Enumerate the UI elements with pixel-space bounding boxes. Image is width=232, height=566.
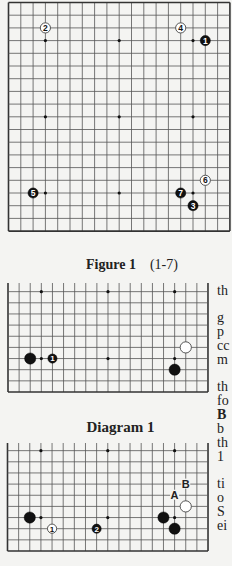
side-text-line: cc xyxy=(217,339,229,353)
side-text-line: ti xyxy=(217,477,225,491)
black-stone xyxy=(24,512,35,523)
go-board-partial: 12AB xyxy=(0,0,232,566)
svg-text:1: 1 xyxy=(50,525,55,534)
star-point xyxy=(39,516,42,519)
side-text-line: m xyxy=(217,353,228,367)
side-text-line: th xyxy=(217,284,228,298)
side-text-line: S xyxy=(217,505,225,519)
svg-text:2: 2 xyxy=(94,525,99,534)
side-text-line: B xyxy=(217,408,226,422)
star-point xyxy=(106,516,109,519)
side-text-line: th xyxy=(217,436,228,450)
side-text-line: ei xyxy=(217,519,227,533)
side-text-line: th xyxy=(217,380,228,394)
star-point xyxy=(173,516,176,519)
star-point xyxy=(106,449,109,452)
black-stone xyxy=(169,523,180,534)
star-point xyxy=(173,449,176,452)
side-text-line: fo xyxy=(217,394,229,408)
side-text-line: g xyxy=(217,311,224,325)
black-stone xyxy=(158,512,169,523)
side-text-line: b xyxy=(217,422,224,436)
star-point xyxy=(39,449,42,452)
point-marker-A: A xyxy=(171,489,179,501)
white-stone xyxy=(180,501,191,512)
black-stone-2: 2 xyxy=(92,524,101,533)
side-text-line: o xyxy=(217,491,224,505)
side-text-line: p xyxy=(217,325,224,339)
white-stone-1: 1 xyxy=(47,524,56,533)
point-marker-B: B xyxy=(182,478,190,490)
side-text-line: 1 xyxy=(217,450,224,464)
diagram2-board: 12AB xyxy=(0,0,232,566)
